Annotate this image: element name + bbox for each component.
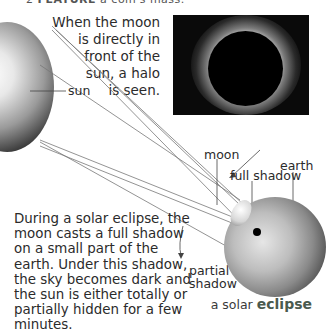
eclipse-description: During a solar eclipse, the moon casts a… bbox=[14, 211, 194, 333]
figure-caption: a solar eclipse bbox=[211, 296, 312, 312]
full-shadow-spot bbox=[253, 228, 261, 236]
moon-label: moon bbox=[204, 147, 239, 162]
partial-shadow-line: shadow bbox=[189, 277, 237, 290]
sun-label: sun bbox=[68, 83, 90, 98]
full-shadow-label: full shadow bbox=[230, 168, 301, 183]
caption-prefix: a solar bbox=[211, 297, 253, 312]
caption-term: eclipse bbox=[257, 296, 312, 312]
